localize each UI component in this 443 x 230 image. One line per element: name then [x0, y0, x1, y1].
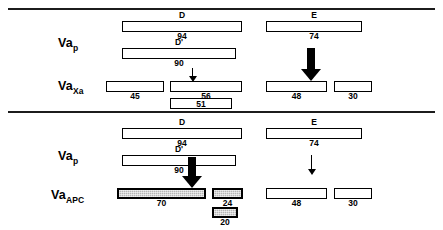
row-label-subscript: p [73, 156, 78, 166]
bar-value-dprime-bottom: 90 [122, 166, 236, 175]
protein-cleavage-diagram: Vap D 94 E 74 D' 90 VaXa 45 56 51 48 30 … [0, 0, 443, 230]
bar-value-dprime-top: 90 [122, 59, 236, 68]
bar-value-xa-51: 51 [170, 100, 232, 109]
domain-label-e-bottom: E [266, 118, 362, 127]
row-label-base: Va [51, 188, 66, 202]
domain-label-dprime-bottom: D' [122, 145, 236, 154]
xa-arrow-heavy-chain-icon [188, 68, 197, 82]
divider-middle [8, 111, 435, 113]
bar-value-e-top: 74 [266, 32, 362, 41]
domain-label-d-top: D [122, 11, 242, 20]
divider-top [8, 8, 435, 10]
row-label-base: Va [58, 149, 73, 163]
bar-value-apc-70: 70 [117, 199, 206, 208]
row-label-base: Va [58, 79, 73, 93]
bar-value-e-bottom: 74 [266, 139, 362, 148]
row-label-subscript: Xa [73, 86, 84, 96]
domain-label-d-bottom: D [122, 118, 242, 127]
domain-label-e-top: E [266, 11, 362, 20]
bar-value-xa-48: 48 [266, 92, 327, 101]
row-label-vap-top: Vap [58, 36, 78, 53]
bar-value-xa-30: 30 [334, 92, 372, 101]
row-label-subscript: p [73, 43, 78, 53]
row-label-base: Va [58, 36, 73, 50]
apc-arrow-light-chain-icon [307, 155, 316, 177]
bar-value-apc-20: 20 [212, 218, 238, 227]
domain-label-dprime-top: D' [122, 38, 236, 47]
row-label-vaapc: VaAPC [51, 188, 84, 205]
row-label-vaxa: VaXa [58, 79, 84, 96]
row-label-subscript: APC [66, 195, 84, 205]
row-label-vap-bottom: Vap [58, 149, 78, 166]
bar-value-apc-48: 48 [266, 199, 327, 208]
bar-value-xa-45: 45 [106, 92, 164, 101]
bar-value-apc-30: 30 [334, 199, 372, 208]
apc-arrow-heavy-chain-icon [182, 157, 202, 189]
xa-arrow-light-chain-icon [301, 48, 321, 82]
